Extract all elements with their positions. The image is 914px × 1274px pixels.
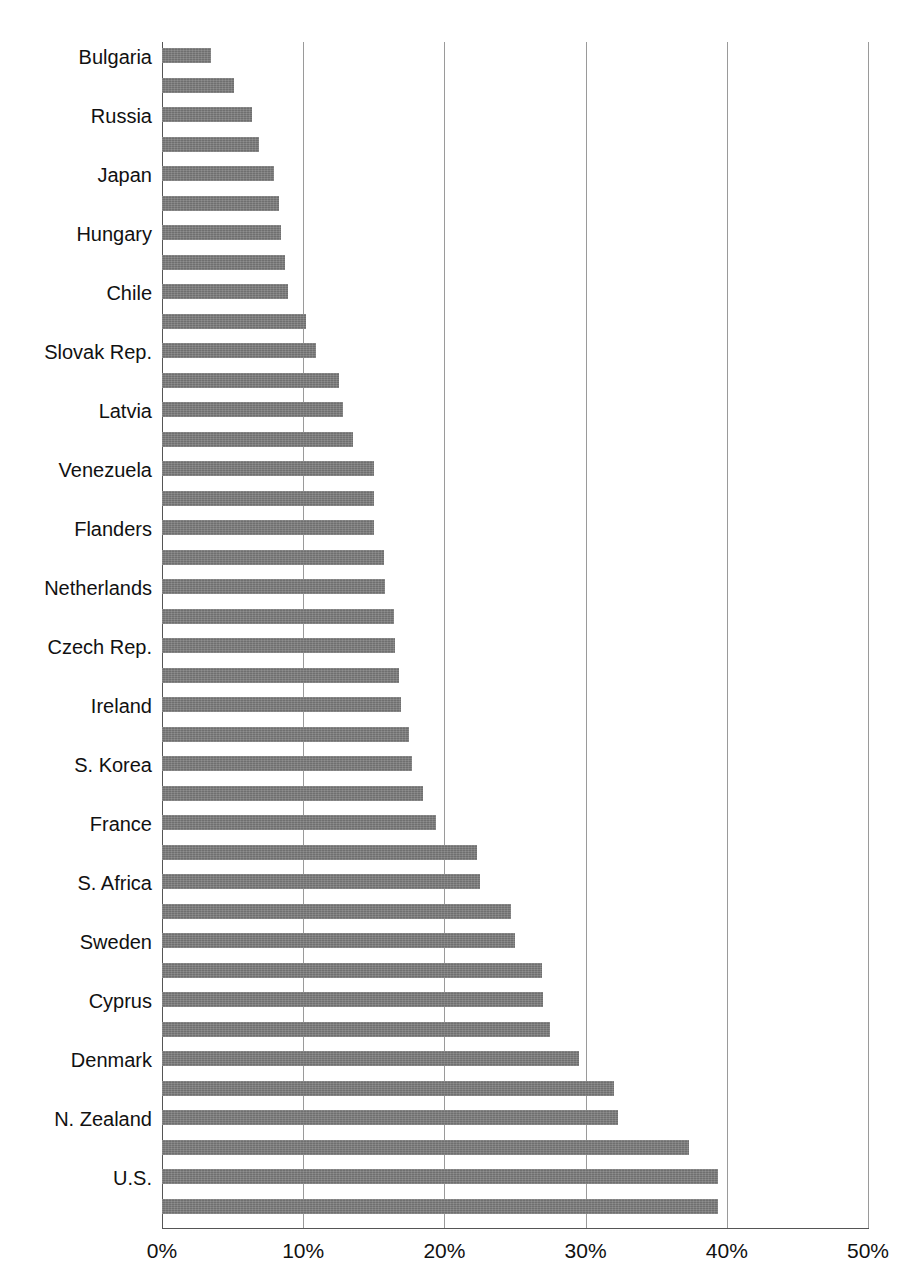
category-label: N. Zealand — [2, 1109, 152, 1129]
bar-row — [162, 520, 868, 535]
bar-row — [162, 166, 868, 181]
bar — [162, 520, 374, 535]
bar-row — [162, 727, 868, 742]
bar — [162, 638, 395, 653]
bar-row — [162, 432, 868, 447]
category-label: S. Korea — [2, 755, 152, 775]
category-label: France — [2, 814, 152, 834]
bar-row — [162, 815, 868, 830]
bar-row — [162, 933, 868, 948]
bar — [162, 1022, 550, 1037]
category-label: Flanders — [2, 519, 152, 539]
bar-row — [162, 609, 868, 624]
category-axis-labels: BulgariaRussiaJapanHungaryChileSlovak Re… — [0, 42, 152, 1229]
bar — [162, 1140, 689, 1155]
bar-row — [162, 461, 868, 476]
bar-row — [162, 756, 868, 771]
bar — [162, 579, 385, 594]
bar — [162, 166, 274, 181]
bar — [162, 314, 306, 329]
bar-row — [162, 992, 868, 1007]
bar-row — [162, 1081, 868, 1096]
bar — [162, 1051, 579, 1066]
bar — [162, 845, 477, 860]
bar-row — [162, 78, 868, 93]
bar-row — [162, 904, 868, 919]
bar — [162, 137, 259, 152]
bar-row — [162, 1110, 868, 1125]
x-tick-label: 20% — [423, 1238, 465, 1264]
bar — [162, 815, 436, 830]
bar-row — [162, 1169, 868, 1184]
category-label: Chile — [2, 283, 152, 303]
category-label: Japan — [2, 165, 152, 185]
bar — [162, 963, 542, 978]
bar — [162, 284, 288, 299]
bar-row — [162, 137, 868, 152]
bar-row — [162, 668, 868, 683]
bar — [162, 373, 339, 388]
bar — [162, 1110, 618, 1125]
category-label: Cyprus — [2, 991, 152, 1011]
bar — [162, 48, 211, 63]
bar — [162, 933, 515, 948]
bar — [162, 609, 394, 624]
x-tick-label: 30% — [565, 1238, 607, 1264]
bar-row — [162, 845, 868, 860]
bar-row — [162, 491, 868, 506]
bar-row — [162, 786, 868, 801]
category-label: Hungary — [2, 224, 152, 244]
category-label: Netherlands — [2, 578, 152, 598]
bar — [162, 255, 285, 270]
category-label: S. Africa — [2, 873, 152, 893]
bar-row — [162, 1140, 868, 1155]
bar-row — [162, 1051, 868, 1066]
bar — [162, 1169, 718, 1184]
bar — [162, 225, 281, 240]
bar — [162, 461, 374, 476]
bar — [162, 432, 353, 447]
bar-row — [162, 1022, 868, 1037]
bar-row — [162, 1199, 868, 1214]
bar — [162, 402, 343, 417]
bar — [162, 727, 409, 742]
plot-area — [162, 42, 868, 1229]
category-label: Russia — [2, 106, 152, 126]
bar-row — [162, 255, 868, 270]
x-tick-label: 0% — [147, 1238, 177, 1264]
bar-row — [162, 638, 868, 653]
bar-row — [162, 284, 868, 299]
gridline-50 — [868, 42, 869, 1229]
category-label: Denmark — [2, 1050, 152, 1070]
bar — [162, 874, 480, 889]
x-axis-baseline — [162, 1228, 869, 1229]
category-label: Bulgaria — [2, 47, 152, 67]
category-label: Ireland — [2, 696, 152, 716]
bar — [162, 992, 543, 1007]
bar — [162, 1081, 614, 1096]
bar — [162, 668, 399, 683]
category-label: Sweden — [2, 932, 152, 952]
bar-row — [162, 579, 868, 594]
bar-row — [162, 550, 868, 565]
bar — [162, 756, 412, 771]
bar-row — [162, 225, 868, 240]
bar-row — [162, 373, 868, 388]
bar — [162, 107, 252, 122]
bar — [162, 196, 279, 211]
bar — [162, 904, 511, 919]
bar-row — [162, 697, 868, 712]
bar-chart: BulgariaRussiaJapanHungaryChileSlovak Re… — [0, 0, 914, 1274]
bar-row — [162, 402, 868, 417]
category-label: U.S. — [2, 1168, 152, 1188]
x-tick-label: 40% — [706, 1238, 748, 1264]
bar-row — [162, 196, 868, 211]
bar — [162, 786, 423, 801]
category-label: Latvia — [2, 401, 152, 421]
x-tick-label: 50% — [847, 1238, 889, 1264]
bar — [162, 491, 374, 506]
category-label: Czech Rep. — [2, 637, 152, 657]
bar — [162, 697, 401, 712]
bar — [162, 1199, 718, 1214]
category-label: Slovak Rep. — [2, 342, 152, 362]
